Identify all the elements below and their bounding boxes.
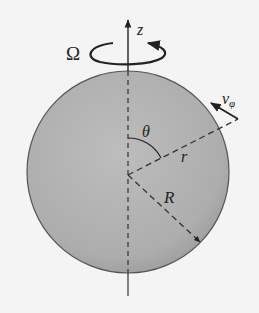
theta-label: θ (142, 123, 150, 140)
phi-subscript: φ (229, 97, 235, 109)
rotating-sphere-diagram: Ω z θ r R vφ (0, 0, 259, 313)
v-phi-label: vφ (222, 90, 235, 109)
omega-label: Ω (66, 43, 80, 64)
z-axis-label: z (136, 21, 144, 38)
r-label: r (181, 148, 188, 165)
R-label: R (163, 188, 175, 207)
